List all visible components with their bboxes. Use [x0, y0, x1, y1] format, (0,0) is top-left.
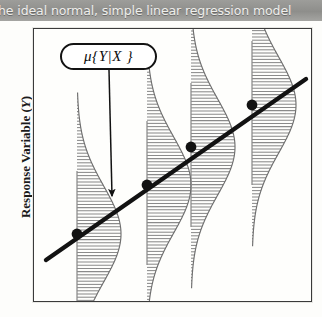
y-axis-title: Response Variable (Y): [18, 57, 34, 257]
mu-callout-box: μ{Y|X }: [60, 43, 157, 70]
mean-point: [247, 100, 258, 111]
distribution-curve: [191, 29, 235, 288]
callout-arrow: [109, 70, 112, 196]
distribution-outline: [253, 29, 296, 246]
distribution-outline: [78, 92, 121, 301]
y-axis-title-variable: Y: [18, 100, 33, 108]
callout-arrow-group: [109, 70, 112, 196]
mean-point: [186, 142, 197, 153]
y-axis-title-text: Response Variable (: [18, 108, 33, 218]
mu-callout-label: μ{Y|X }: [62, 45, 155, 68]
y-axis-title-paren: ): [18, 96, 33, 100]
caption-text: he ideal normal, simple linear regressio…: [0, 1, 291, 20]
distribution-curve: [252, 29, 296, 246]
distribution-curve: [77, 92, 121, 301]
caption-bar: he ideal normal, simple linear regressio…: [0, 0, 322, 21]
mean-point: [142, 180, 153, 191]
figure-root: he ideal normal, simple linear regressio…: [0, 0, 322, 317]
mean-point: [72, 229, 83, 240]
plot-area: μ{Y|X }: [33, 28, 312, 302]
